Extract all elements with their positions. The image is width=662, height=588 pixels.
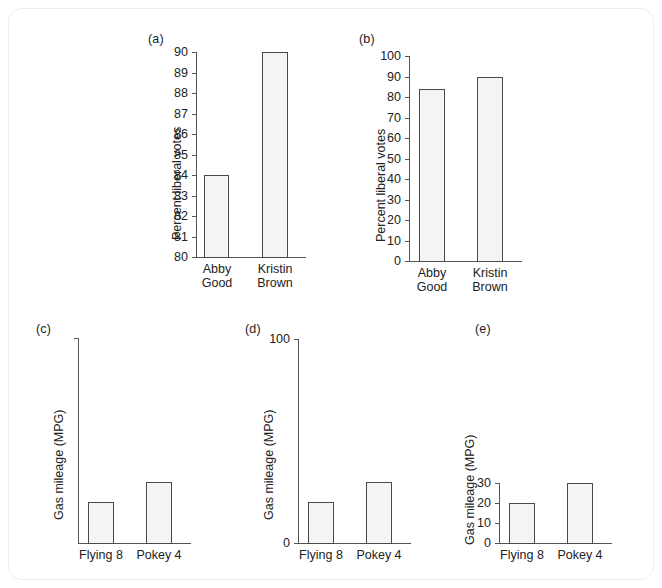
y-tick-d-100: [294, 339, 298, 340]
y-tick-label-a-90: 90: [156, 45, 188, 59]
x-category-label-c-flying-8: Flying 8: [70, 548, 132, 562]
y-tick-label-e-0: 0: [459, 536, 491, 550]
x-category-label-a-kristin-brown: Kristin Brown: [243, 262, 307, 290]
x-category-label-d-pokey-4: Pokey 4: [348, 548, 410, 562]
y-tick-b-0: [405, 261, 409, 262]
y-tick-a-84: [192, 175, 196, 176]
y-tick-d-0: [294, 543, 298, 544]
y-tick-b-100: [405, 56, 409, 57]
cat-line-2: Brown: [243, 276, 307, 290]
y-tick-label-a-85: 85: [156, 148, 188, 162]
x-category-label-c-pokey-4: Pokey 4: [128, 548, 190, 562]
y-tick-e-30: [495, 483, 499, 484]
bar-e-pokey-4: [567, 483, 593, 544]
y-tick-label-a-80: 80: [156, 250, 188, 264]
y-tick-e-20: [495, 503, 499, 504]
cat-line-1: Kristin: [243, 262, 307, 276]
y-tick-label-e-10: 10: [459, 516, 491, 530]
panel-letter-e: (e): [475, 322, 491, 336]
cat-line-2: Good: [401, 280, 463, 294]
y-tick-c-top: [74, 338, 78, 339]
y-tick-label-b-40: 40: [361, 172, 401, 186]
y-axis-line-a: [196, 52, 197, 258]
y-tick-b-30: [405, 200, 409, 201]
panel-letter-c: (c): [36, 322, 51, 336]
y-tick-label-a-81: 81: [156, 230, 188, 244]
y-tick-b-60: [405, 138, 409, 139]
y-tick-label-a-86: 86: [156, 127, 188, 141]
x-category-label-b-abby-good: Abby Good: [401, 266, 463, 294]
y-tick-label-e-20: 20: [459, 496, 491, 510]
y-tick-b-80: [405, 97, 409, 98]
y-tick-b-70: [405, 118, 409, 119]
y-tick-label-d-0: 0: [250, 536, 290, 550]
y-tick-label-b-10: 10: [361, 234, 401, 248]
x-category-label-a-abby-good: Abby Good: [186, 262, 248, 290]
y-axis-line-b: [409, 56, 410, 262]
y-axis-title-a: Percent liberal votes: [170, 127, 184, 240]
cat-line-2: Good: [186, 276, 248, 290]
y-tick-label-a-89: 89: [156, 66, 188, 80]
y-tick-label-b-0: 0: [361, 254, 401, 268]
bar-a-kristin-brown: [262, 52, 288, 258]
bar-c-pokey-4: [146, 482, 172, 544]
y-tick-a-86: [192, 134, 196, 135]
panel-letter-b: (b): [359, 32, 375, 46]
x-category-label-e-flying-8: Flying 8: [491, 548, 553, 562]
bar-a-abby-good: [204, 175, 229, 258]
y-tick-a-83: [192, 196, 196, 197]
y-tick-a-89: [192, 73, 196, 74]
y-tick-label-b-90: 90: [361, 70, 401, 84]
y-tick-a-88: [192, 93, 196, 94]
y-tick-label-b-80: 80: [361, 90, 401, 104]
y-tick-b-40: [405, 179, 409, 180]
y-tick-label-b-30: 30: [361, 193, 401, 207]
figure-page: (a) Percent liberal votes 90 89 88 87 86…: [0, 0, 662, 588]
y-tick-label-a-83: 83: [156, 189, 188, 203]
y-tick-b-90: [405, 77, 409, 78]
y-tick-a-85: [192, 155, 196, 156]
y-axis-line-c: [78, 338, 79, 544]
y-tick-label-b-100: 100: [361, 49, 401, 63]
y-tick-a-81: [192, 237, 196, 238]
y-tick-e-10: [495, 523, 499, 524]
y-tick-label-a-84: 84: [156, 168, 188, 182]
page-border: [8, 8, 654, 580]
bar-b-abby-good: [419, 89, 445, 262]
x-category-label-b-kristin-brown: Kristin Brown: [458, 266, 522, 294]
y-tick-a-82: [192, 216, 196, 217]
y-tick-a-90: [192, 52, 196, 53]
panel-letter-a: (a): [148, 32, 164, 46]
bar-c-flying-8: [88, 502, 114, 544]
y-tick-label-b-20: 20: [361, 213, 401, 227]
y-tick-b-50: [405, 159, 409, 160]
y-tick-label-e-30: 30: [459, 476, 491, 490]
x-category-label-e-pokey-4: Pokey 4: [549, 548, 611, 562]
y-tick-e-0: [495, 543, 499, 544]
y-tick-label-b-50: 50: [361, 152, 401, 166]
y-axis-line-e: [499, 483, 500, 544]
bar-e-flying-8: [509, 503, 535, 544]
y-tick-label-d-100: 100: [250, 332, 290, 346]
y-tick-label-b-60: 60: [361, 131, 401, 145]
cat-line-1: Abby: [401, 266, 463, 280]
y-axis-title-d: Gas mileage (MPG): [262, 410, 276, 520]
cat-line-1: Abby: [186, 262, 248, 276]
y-axis-title-c: Gas mileage (MPG): [52, 410, 66, 520]
y-tick-label-b-70: 70: [361, 111, 401, 125]
y-tick-b-20: [405, 220, 409, 221]
cat-line-1: Kristin: [458, 266, 522, 280]
bar-d-flying-8: [308, 502, 334, 544]
y-axis-line-d: [298, 339, 299, 544]
bar-b-kristin-brown: [477, 77, 503, 262]
y-tick-a-87: [192, 114, 196, 115]
bar-d-pokey-4: [366, 482, 392, 544]
y-tick-a-80: [192, 257, 196, 258]
cat-line-2: Brown: [458, 280, 522, 294]
y-tick-b-10: [405, 241, 409, 242]
y-tick-label-a-88: 88: [156, 86, 188, 100]
y-tick-label-a-87: 87: [156, 107, 188, 121]
x-category-label-d-flying-8: Flying 8: [290, 548, 352, 562]
y-tick-label-a-82: 82: [156, 209, 188, 223]
